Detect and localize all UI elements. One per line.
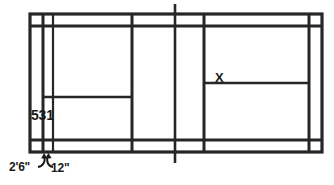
arrowhead-12in — [46, 153, 52, 158]
badminton-court-diagram: 531 X 2'6" 12" — [0, 0, 334, 185]
dimension-label-line-width: 12" — [51, 161, 69, 175]
court-line-drawing — [0, 0, 334, 185]
court-mark-label: 531 — [31, 107, 54, 123]
position-marker-x: X — [215, 70, 223, 85]
dimension-label-doubles-alley: 2'6" — [9, 160, 30, 174]
